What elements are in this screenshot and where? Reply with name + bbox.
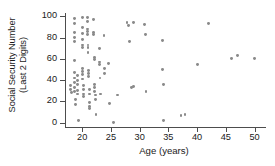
data-point bbox=[98, 63, 101, 66]
data-point bbox=[88, 107, 91, 110]
x-tick-label: 50 bbox=[243, 133, 267, 142]
data-point bbox=[88, 101, 91, 104]
data-point bbox=[81, 26, 84, 29]
data-point bbox=[99, 77, 102, 80]
data-point bbox=[81, 32, 84, 35]
data-point bbox=[184, 113, 187, 116]
data-point bbox=[69, 84, 72, 87]
data-point bbox=[145, 90, 148, 93]
data-point bbox=[128, 40, 131, 43]
data-point bbox=[76, 83, 79, 86]
data-point bbox=[86, 33, 89, 36]
data-point bbox=[230, 57, 233, 60]
data-point bbox=[98, 47, 101, 50]
data-point bbox=[77, 119, 80, 122]
data-point bbox=[87, 75, 90, 78]
x-tick-label: 40 bbox=[185, 133, 209, 142]
data-point bbox=[76, 79, 79, 82]
data-point bbox=[81, 46, 84, 49]
data-point bbox=[74, 98, 77, 101]
data-point bbox=[93, 86, 96, 89]
data-point bbox=[144, 33, 147, 36]
data-point bbox=[92, 33, 95, 36]
data-point bbox=[76, 89, 79, 92]
y-axis-label-line-2: (Last 2 Digits) bbox=[19, 37, 28, 93]
data-point bbox=[81, 78, 84, 81]
data-point bbox=[103, 34, 106, 37]
data-point bbox=[143, 23, 146, 26]
x-tick-label: 25 bbox=[99, 133, 123, 142]
data-point bbox=[207, 22, 210, 25]
data-point bbox=[76, 74, 79, 77]
y-tick-label: 60 bbox=[17, 54, 57, 63]
plot-area bbox=[65, 13, 266, 127]
data-point bbox=[76, 93, 79, 96]
data-point bbox=[82, 95, 85, 98]
data-point bbox=[81, 16, 84, 19]
data-point bbox=[87, 51, 90, 54]
x-axis-label: Age (years) bbox=[64, 146, 264, 156]
data-point bbox=[94, 98, 97, 101]
y-tick-label: 100 bbox=[17, 11, 57, 20]
data-point bbox=[86, 16, 89, 19]
data-point bbox=[103, 72, 106, 75]
data-point bbox=[161, 39, 164, 42]
data-point bbox=[161, 68, 164, 71]
data-point bbox=[70, 91, 73, 94]
data-point bbox=[116, 94, 119, 97]
data-point bbox=[112, 121, 115, 124]
data-point bbox=[93, 90, 96, 93]
data-point bbox=[82, 84, 85, 87]
x-axis-line bbox=[65, 127, 266, 128]
data-point bbox=[103, 67, 106, 70]
y-tick-label: 0 bbox=[17, 118, 57, 127]
y-tick-label: 40 bbox=[17, 75, 57, 84]
x-tick-label: 35 bbox=[156, 133, 180, 142]
scatter-plot-figure: Social Security Number (Last 2 Digits) 0… bbox=[0, 0, 275, 166]
data-point bbox=[86, 20, 89, 23]
data-point bbox=[108, 102, 111, 105]
y-tick-label: 80 bbox=[17, 33, 57, 42]
data-point bbox=[73, 40, 76, 43]
data-point bbox=[73, 17, 76, 20]
data-point bbox=[92, 18, 95, 21]
data-point bbox=[73, 59, 76, 62]
data-point bbox=[94, 94, 97, 97]
data-point bbox=[132, 21, 135, 24]
data-point bbox=[132, 85, 135, 88]
data-point bbox=[253, 57, 256, 60]
data-point bbox=[236, 54, 239, 57]
data-point bbox=[99, 93, 102, 96]
data-point bbox=[162, 83, 165, 86]
x-tick-label: 45 bbox=[214, 133, 238, 142]
data-point bbox=[127, 24, 130, 27]
data-point bbox=[87, 46, 90, 49]
y-tick-label: 20 bbox=[17, 96, 57, 105]
data-point bbox=[74, 103, 77, 106]
x-tick-label: 30 bbox=[128, 133, 152, 142]
data-point bbox=[93, 58, 96, 61]
data-point bbox=[73, 31, 76, 34]
data-point bbox=[162, 119, 165, 122]
data-point bbox=[88, 88, 91, 91]
data-point bbox=[73, 36, 76, 39]
x-tick-label: 20 bbox=[70, 133, 94, 142]
data-point bbox=[88, 93, 91, 96]
data-point bbox=[180, 114, 183, 117]
data-point bbox=[81, 73, 84, 76]
data-point bbox=[107, 62, 110, 65]
data-point bbox=[196, 63, 199, 66]
data-point bbox=[73, 22, 76, 25]
data-point bbox=[95, 113, 98, 116]
data-point bbox=[82, 88, 85, 91]
data-point bbox=[81, 38, 84, 41]
